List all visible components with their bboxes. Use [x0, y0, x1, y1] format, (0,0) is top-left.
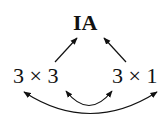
arrow-right-to-top: [104, 38, 126, 62]
arrow-left-to-top: [55, 38, 77, 62]
diagram-canvas: IA 3 × 3 3 × 1: [0, 0, 168, 120]
inner-arc-double-arrow: [66, 91, 112, 106]
node-ia: IA: [73, 12, 97, 34]
node-3x1: 3 × 1: [112, 65, 157, 87]
node-3x3: 3 × 3: [13, 65, 58, 87]
outer-arc-double-arrow: [24, 92, 157, 114]
